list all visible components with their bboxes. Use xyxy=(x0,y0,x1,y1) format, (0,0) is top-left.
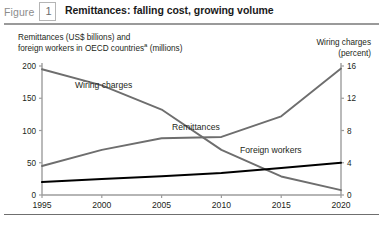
y2-axis-tick-label: 0 xyxy=(347,191,352,200)
left-axis-caption: Remittances (US$ billions) and foreign w… xyxy=(18,33,182,54)
left-axis-caption-line2-post: (millions) xyxy=(147,44,182,53)
figure-number: 1 xyxy=(40,3,57,19)
x-axis-tick-label: 2015 xyxy=(272,200,291,210)
series-line-wiring-charges xyxy=(42,69,341,190)
x-axis-tick-label: 2010 xyxy=(212,200,231,210)
figure-title: Remittances: falling cost, growing volum… xyxy=(65,4,274,16)
chart-series-labels: Wiring chargesRemittancesForeign workers xyxy=(75,80,302,155)
x-axis-tick-label: 2005 xyxy=(152,200,171,210)
left-axis-caption-line1: Remittances (US$ billions) and xyxy=(18,33,130,42)
y2-axis-tick-label: 8 xyxy=(347,127,352,136)
figure-word-label: Figure xyxy=(4,6,34,18)
series-line-foreign-workers xyxy=(42,163,341,182)
y-axis-tick-label: 0 xyxy=(31,191,36,200)
y-axis-tick-label: 100 xyxy=(22,127,36,136)
figure-number-box: 1 xyxy=(39,2,56,21)
header-divider xyxy=(4,23,379,25)
series-label-foreign-workers: Foreign workers xyxy=(240,145,302,155)
chart-series xyxy=(42,69,341,191)
y2-axis-tick-label: 16 xyxy=(347,62,357,71)
right-axis-caption-line2: (percent) xyxy=(316,49,371,60)
chart-axes: 0501001502000481216199520002005201020152… xyxy=(22,62,356,210)
series-line-remittances xyxy=(42,69,341,166)
left-axis-caption-line2-pre: foreign workers in OECD countries xyxy=(18,44,144,53)
figure-panel: Figure 1 Remittances: falling cost, grow… xyxy=(0,0,383,227)
right-axis-caption-line1: Wiring charges xyxy=(316,38,371,47)
y-axis-tick-label: 150 xyxy=(22,94,36,103)
series-label-remittances: Remittances xyxy=(172,122,220,132)
right-axis-caption: Wiring charges (percent) xyxy=(316,38,371,59)
footer-divider xyxy=(4,214,379,215)
figure-header: Figure 1 Remittances: falling cost, grow… xyxy=(0,0,383,24)
y-axis-tick-label: 200 xyxy=(22,62,36,71)
x-axis-tick-label: 2020 xyxy=(331,200,350,210)
y-axis-tick-label: 50 xyxy=(27,159,37,168)
x-axis-tick-label: 1995 xyxy=(32,200,51,210)
x-axis-tick-label: 2000 xyxy=(92,200,111,210)
y2-axis-tick-label: 12 xyxy=(347,94,357,103)
y2-axis-tick-label: 4 xyxy=(347,159,352,168)
series-label-wiring-charges: Wiring charges xyxy=(75,80,132,90)
